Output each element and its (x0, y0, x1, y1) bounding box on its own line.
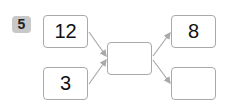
input-box-2: 3 (43, 67, 88, 100)
output-answer-box[interactable] (171, 67, 216, 100)
middle-answer-box[interactable] (107, 42, 152, 75)
input-box-1: 12 (43, 15, 88, 48)
output-box-1: 8 (171, 15, 216, 48)
